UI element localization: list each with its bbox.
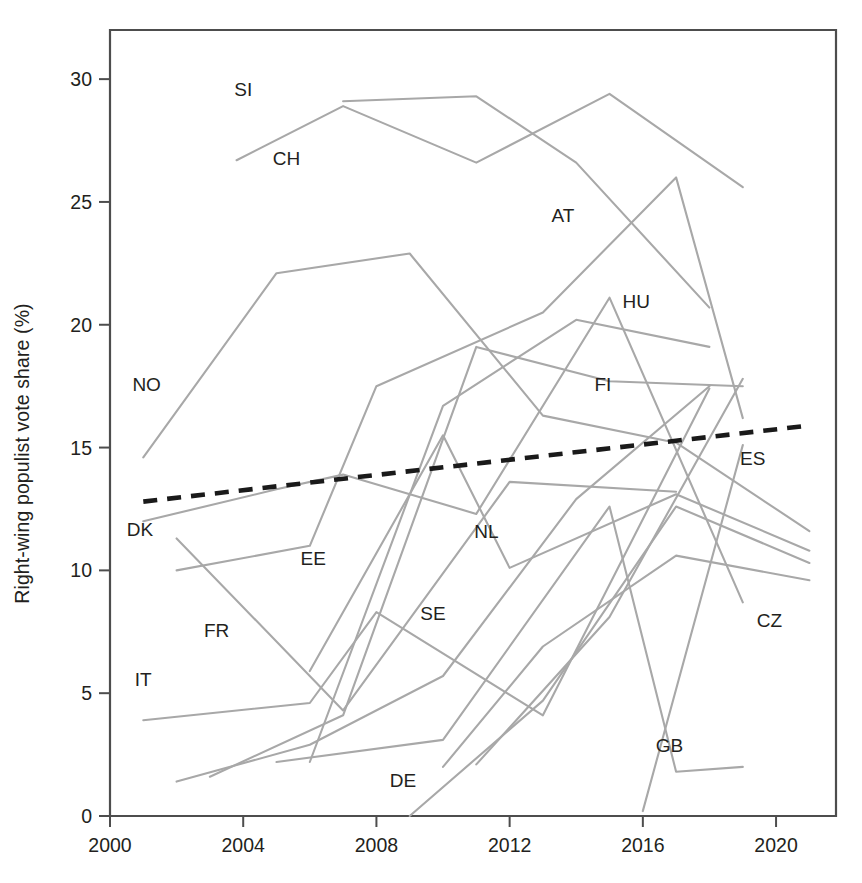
series-label-ee: EE [300, 548, 325, 569]
series-label-gb: GB [656, 735, 683, 756]
series-label-se: SE [420, 603, 445, 624]
x-axis-ticks: 200020042008201220162020 [88, 816, 798, 856]
series-label-it: IT [135, 669, 152, 690]
x-tick-label: 2008 [355, 834, 398, 856]
series-label-si: SI [234, 79, 252, 100]
x-tick-label: 2000 [88, 834, 132, 856]
x-tick-label: 2004 [222, 834, 266, 856]
x-tick-label: 2016 [621, 834, 664, 856]
series-layer [143, 94, 809, 816]
series-label-cz: CZ [757, 610, 783, 631]
series-label-hu: HU [622, 291, 649, 312]
y-tick-label: 25 [70, 191, 92, 213]
series-line-it [143, 389, 709, 721]
series-line-fi [210, 347, 743, 777]
figure-panel: Right-wing populist vote share (%) 05101… [0, 0, 862, 883]
y-tick-label: 0 [81, 805, 92, 827]
series-line-fr [177, 482, 676, 711]
y-axis-ticks: 051015202530 [70, 68, 110, 827]
series-line-dk [143, 298, 743, 603]
series-label-layer: SICHNOATHUFIDKEEFRITSENLDEGBESCZ [127, 79, 783, 790]
series-label-nl: NL [474, 521, 498, 542]
y-tick-label: 20 [70, 314, 92, 336]
y-tick-label: 15 [70, 437, 92, 459]
series-line-si [343, 96, 709, 307]
y-tick-label: 10 [70, 559, 92, 581]
series-line-at [177, 177, 743, 570]
series-line-de [410, 507, 810, 817]
series-line-ch [237, 94, 743, 187]
x-tick-label: 2020 [754, 834, 798, 856]
x-tick-label: 2012 [488, 834, 531, 856]
series-label-no: NO [132, 374, 161, 395]
series-line-es [643, 445, 743, 811]
series-label-fr: FR [204, 620, 229, 641]
series-label-fi: FI [594, 374, 611, 395]
series-label-ch: CH [273, 148, 300, 169]
series-label-de: DE [390, 770, 416, 791]
y-tick-label: 5 [81, 682, 92, 704]
series-label-es: ES [740, 448, 765, 469]
series-line-gb [277, 507, 743, 772]
y-tick-label: 30 [70, 68, 92, 90]
series-label-dk: DK [127, 519, 154, 540]
series-label-at: AT [551, 205, 574, 226]
chart-canvas: 051015202530 200020042008201220162020 SI… [0, 0, 862, 883]
